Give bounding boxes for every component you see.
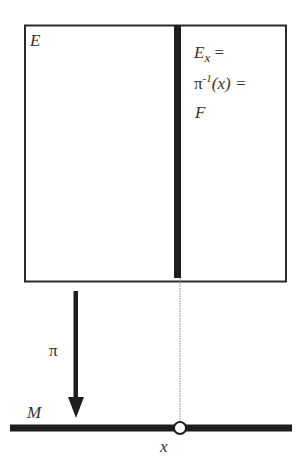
fiber-eq1: = [210, 43, 224, 62]
fiber-bar [174, 25, 181, 278]
total-space-box [25, 26, 286, 282]
fiber-arg: (x) = [212, 74, 247, 93]
base-space-line [10, 425, 292, 432]
projection-arrow-icon [68, 291, 84, 418]
point-x-label: x [159, 437, 168, 456]
base-point-circle [174, 422, 186, 434]
fiber-equation-line1: Ex = [193, 43, 224, 65]
base-space-label: M [26, 403, 42, 422]
fiber-equation-line2: π-1(x) = [194, 72, 246, 93]
fiber-E: E [193, 43, 205, 62]
fiber-inverse-sup: -1 [203, 72, 212, 84]
total-space-label: E [29, 31, 41, 50]
fiber-F-label: F [194, 103, 206, 122]
fiber-bundle-diagram: E Ex = π-1(x) = F π M x [0, 0, 303, 470]
projection-label: π [49, 341, 58, 360]
